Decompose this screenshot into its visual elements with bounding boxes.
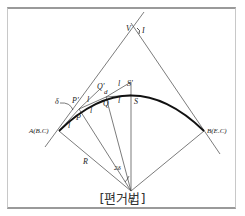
label-R: R [82,157,88,166]
label-A: A(B.C) [28,127,49,135]
label-delta: δ [55,97,59,106]
label-l-4: l [118,79,121,88]
label-V: V [126,24,132,33]
label-P-prime: P' [71,96,79,105]
label-two-delta: 2δ [114,164,122,172]
label-S: S [134,97,138,106]
line-OQ [106,97,131,191]
label-P: P [75,113,81,122]
label-l-1: l [68,121,71,130]
label-d: d [104,88,108,96]
label-l-5: l [118,96,121,105]
deflection-method-diagram: V I A(B.C) B(E.C) O R P P' Q Q' S S' δ 2… [0,0,245,216]
figure-caption: [편거법] [0,188,245,207]
intersection-angle-arc [137,28,140,34]
radius-OA [59,131,131,191]
label-I: I [141,26,145,35]
chord-PQ [79,97,106,109]
label-l-2: l [87,95,90,104]
label-B: B(E.C) [207,127,227,135]
label-Q: Q [103,99,109,108]
label-S-prime: S' [127,79,133,88]
line-OP [79,109,131,191]
radius-OB [131,131,204,191]
label-l-3: l [90,106,93,115]
